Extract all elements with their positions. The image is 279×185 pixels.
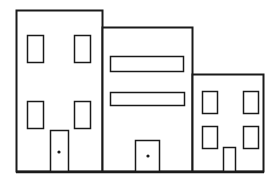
window-band (111, 57, 184, 72)
door (224, 148, 236, 172)
window (28, 102, 44, 129)
door-knob (146, 154, 149, 157)
middle-building (103, 28, 193, 172)
door-knob (57, 150, 60, 153)
window (75, 102, 91, 129)
window (75, 36, 91, 63)
window (244, 92, 259, 114)
buildings-illustration (0, 0, 279, 185)
right-building (193, 75, 264, 172)
window-band (111, 93, 185, 106)
left-building (17, 11, 103, 172)
window (28, 36, 44, 63)
window (203, 127, 218, 149)
window (244, 127, 259, 149)
window (203, 92, 218, 114)
